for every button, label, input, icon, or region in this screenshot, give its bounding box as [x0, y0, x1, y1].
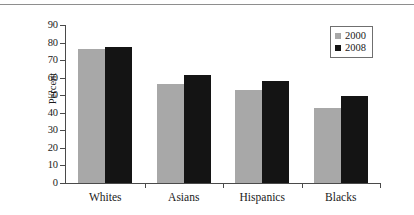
x-axis-tick: [223, 183, 224, 188]
y-axis-tick: [60, 78, 65, 79]
y-axis-tick-label: 60: [28, 73, 58, 84]
y-axis-tick: [60, 130, 65, 131]
x-axis-label-blacks: Blacks: [301, 191, 381, 204]
top-divider-rule: [0, 4, 414, 5]
legend-item: 2000: [335, 30, 366, 42]
bar-asians-2008: [184, 75, 211, 183]
bar-hispanics-2008: [262, 81, 289, 183]
legend-swatch-2008-icon: [335, 45, 341, 51]
y-axis-tick: [60, 60, 65, 61]
bar-blacks-2000: [314, 108, 341, 183]
legend-label-2000: 2000: [345, 30, 366, 42]
x-axis-label-whites: Whites: [65, 191, 145, 204]
y-axis-tick: [60, 183, 65, 184]
x-axis-tick: [380, 183, 381, 188]
y-axis-tick-label: 70: [28, 55, 58, 66]
bar-whites-2000: [78, 49, 105, 183]
y-axis-tick-label: 20: [28, 143, 58, 154]
x-axis-tick: [302, 183, 303, 188]
y-axis-tick: [60, 165, 65, 166]
y-axis-tick-label: 90: [28, 20, 58, 31]
y-axis-tick-label: 50: [28, 90, 58, 101]
y-axis-tick-label: 0: [28, 178, 58, 189]
y-axis-tick: [60, 148, 65, 149]
y-axis-tick-label: 40: [28, 108, 58, 119]
legend-item: 2008: [335, 42, 366, 54]
y-axis-tick-label: 30: [28, 125, 58, 136]
bar-blacks-2008: [341, 96, 368, 183]
x-axis-tick: [145, 183, 146, 188]
y-axis-tick: [60, 43, 65, 44]
y-axis-tick-label: 80: [28, 38, 58, 49]
y-axis-tick-label: 10: [28, 160, 58, 171]
x-axis-label-asians: Asians: [144, 191, 224, 204]
y-axis-tick: [60, 95, 65, 96]
x-axis-label-hispanics: Hispanics: [222, 191, 302, 204]
chart-legend: 2000 2008: [330, 26, 373, 58]
legend-label-2008: 2008: [345, 42, 366, 54]
bar-hispanics-2000: [235, 90, 262, 183]
legend-swatch-2000-icon: [335, 33, 341, 39]
y-axis-tick: [60, 113, 65, 114]
bar-asians-2000: [157, 84, 184, 183]
bar-chart-figure: Percent 0102030405060708090 WhitesAsians…: [0, 0, 414, 215]
y-axis-tick: [60, 25, 65, 26]
bar-whites-2008: [105, 47, 132, 183]
